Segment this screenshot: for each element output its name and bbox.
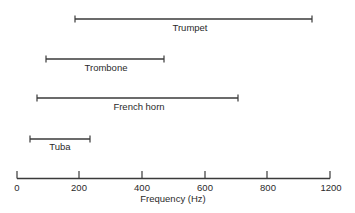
label-tuba: Tuba [49, 141, 71, 152]
tick-label-1200: 1200 [320, 182, 341, 193]
tick-label-400: 400 [134, 182, 150, 193]
range-bar-trumpet: Trumpet [75, 16, 312, 34]
label-trombone: Trombone [85, 62, 128, 73]
range-bar-trombone: Trombone [46, 56, 164, 74]
tick-label-800: 800 [260, 182, 276, 193]
frequency-range-chart: Trumpet Trombone French horn Tuba 0 200 … [0, 0, 355, 213]
range-bar-tuba: Tuba [30, 136, 90, 153]
tick-label-0: 0 [14, 182, 19, 193]
tick-label-200: 200 [71, 182, 87, 193]
x-axis: 0 200 400 600 800 1200 Frequency (Hz) [14, 171, 341, 204]
range-bar-french-horn: French horn [37, 95, 238, 113]
tick-label-600: 600 [197, 182, 213, 193]
x-axis-title: Frequency (Hz) [140, 193, 205, 204]
label-french-horn: French horn [113, 101, 164, 112]
label-trumpet: Trumpet [172, 22, 207, 33]
